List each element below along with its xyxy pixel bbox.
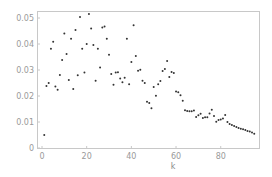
data-point	[249, 131, 251, 133]
data-point	[213, 115, 215, 117]
data-point	[108, 54, 110, 56]
data-point	[175, 91, 177, 93]
y-tick-label: 0.05	[16, 14, 34, 23]
data-point	[66, 53, 68, 55]
data-point	[247, 130, 249, 132]
data-point	[59, 74, 61, 76]
data-point	[157, 83, 159, 85]
data-point	[253, 133, 255, 135]
data-point	[130, 61, 132, 63]
data-point	[195, 116, 197, 118]
data-point	[72, 88, 74, 90]
data-point	[233, 125, 235, 127]
data-point	[133, 24, 135, 26]
data-point	[244, 129, 246, 131]
data-point	[81, 48, 83, 50]
data-point	[104, 26, 106, 28]
data-point	[231, 124, 233, 126]
y-tick-label: 0.02	[16, 92, 34, 101]
data-point	[168, 76, 170, 78]
x-axis-label: k	[171, 162, 176, 171]
data-point	[77, 74, 79, 76]
data-point	[188, 110, 190, 112]
data-point	[61, 59, 63, 61]
data-point	[200, 113, 202, 115]
data-point	[186, 110, 188, 112]
data-point	[182, 100, 184, 102]
data-point	[146, 101, 148, 103]
data-point	[153, 86, 155, 88]
data-point	[211, 109, 213, 111]
data-point	[54, 85, 56, 87]
data-point	[110, 73, 112, 75]
data-point	[159, 80, 161, 82]
data-point	[229, 123, 231, 125]
data-point	[180, 94, 182, 96]
data-point	[202, 117, 204, 119]
x-tick-label: 0	[39, 152, 44, 161]
data-point	[155, 95, 157, 97]
x-tick-label: 80	[216, 152, 226, 161]
data-point	[220, 118, 222, 120]
data-point	[162, 70, 164, 72]
plot-frame	[38, 12, 260, 149]
data-point	[193, 110, 195, 112]
data-point	[204, 116, 206, 118]
y-axis-ticks: 00.010.020.030.040.05	[16, 14, 40, 153]
data-point	[240, 128, 242, 130]
data-point	[88, 13, 90, 15]
data-point	[97, 48, 99, 50]
data-point	[95, 80, 97, 82]
data-point	[142, 80, 144, 82]
data-point	[148, 102, 150, 104]
data-point	[171, 71, 173, 73]
data-point	[215, 121, 217, 123]
data-point	[177, 91, 179, 93]
y-tick-label: 0.01	[16, 118, 34, 127]
data-point	[135, 55, 137, 57]
data-point	[166, 60, 168, 62]
data-point	[48, 82, 50, 84]
data-point	[217, 119, 219, 121]
data-point	[235, 126, 237, 128]
data-point	[184, 109, 186, 111]
x-tick-label: 40	[126, 152, 136, 161]
data-point	[139, 69, 141, 71]
data-point	[90, 27, 92, 29]
data-point	[242, 128, 244, 130]
data-point	[43, 134, 45, 136]
data-point	[191, 110, 193, 112]
data-point	[144, 82, 146, 84]
data-point	[112, 84, 114, 86]
data-point	[52, 41, 54, 43]
data-point	[126, 38, 128, 40]
data-point	[222, 118, 224, 120]
data-point	[197, 114, 199, 116]
data-point	[115, 72, 117, 74]
data-point	[164, 68, 166, 70]
scatter-chart: 020406080 00.010.020.030.040.05 k	[0, 0, 272, 177]
data-point	[124, 77, 126, 79]
data-point	[57, 89, 59, 91]
data-point	[119, 78, 121, 80]
data-point	[121, 81, 123, 83]
data-point	[68, 79, 70, 81]
data-point	[209, 112, 211, 114]
y-tick-label: 0	[29, 144, 34, 153]
data-point	[128, 83, 130, 85]
x-tick-label: 20	[82, 152, 92, 161]
data-point	[63, 33, 65, 35]
data-point	[238, 127, 240, 129]
data-point	[150, 107, 152, 109]
x-tick-label: 60	[171, 152, 181, 161]
data-point	[50, 48, 52, 50]
data-point	[117, 71, 119, 73]
data-point	[83, 72, 85, 74]
data-point	[106, 38, 108, 40]
data-point	[79, 16, 81, 18]
data-point	[92, 44, 94, 46]
data-point	[86, 43, 88, 45]
y-tick-label: 0.04	[16, 40, 34, 49]
y-tick-label: 0.03	[16, 66, 34, 75]
data-point	[99, 66, 101, 68]
